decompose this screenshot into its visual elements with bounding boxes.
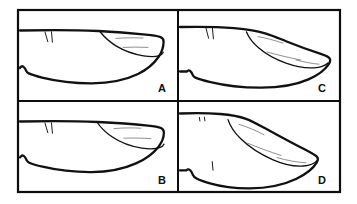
panel-d-seta-1	[199, 117, 200, 121]
panel-d-drawing	[180, 113, 318, 188]
panel-a-drawing	[20, 30, 164, 83]
panel-d-body-outline	[180, 113, 318, 188]
panel-d-seta-2	[204, 117, 205, 121]
panel-b-drawing	[20, 121, 164, 172]
panel-c-drawing	[180, 27, 330, 88]
panel-b-body-outline	[20, 121, 164, 172]
panel-b-label: B	[158, 174, 166, 186]
panel-c-label: C	[318, 82, 326, 94]
figure-plate-svg: A B C	[0, 0, 357, 204]
figure-plate: A B C	[0, 0, 357, 204]
panel-d-label: D	[318, 174, 326, 186]
panel-a-label: A	[158, 82, 166, 94]
panel-c-body-outline	[180, 27, 330, 88]
